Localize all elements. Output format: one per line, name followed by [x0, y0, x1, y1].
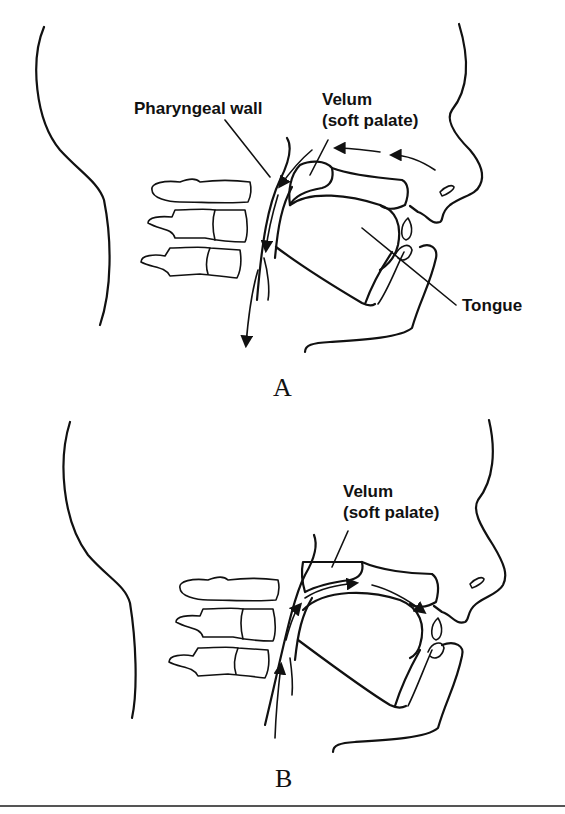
vertebrae-a: [141, 179, 251, 278]
upper-teeth-a: [402, 218, 412, 240]
epiglottis-a: [264, 258, 269, 300]
nostril-a: [440, 186, 454, 196]
airflow-arrow-nasal-1: [392, 155, 435, 170]
label-velum-a-line1: Velum: [322, 90, 372, 109]
panel-caption-a: A: [273, 373, 292, 402]
mandible-inner-a: [365, 252, 392, 304]
leader-line-tongue: [362, 228, 456, 305]
label-velum-b-line1: Velum: [343, 482, 393, 501]
pharynx-wall-back-b: [265, 535, 316, 725]
face-profile-a: [410, 24, 482, 223]
leader-line-velum-a: [310, 140, 328, 175]
tongue-lower-a: [276, 247, 375, 305]
mandible-inner2-b: [408, 650, 432, 706]
tongue-a: [290, 196, 399, 270]
panel-b: Velum (soft palate) B: [64, 420, 506, 793]
mandible-inner-b: [395, 650, 420, 706]
airflow-arrow-pharynx-3: [246, 270, 258, 345]
label-velum-b-line2: (soft palate): [343, 503, 439, 522]
neck-outline-b: [64, 422, 136, 718]
vertebrae-b: [169, 577, 279, 678]
bottom-rule: [0, 805, 565, 807]
upper-teeth-b: [432, 618, 442, 640]
airflow-arrow-nasal-2: [336, 148, 380, 152]
jaw-a: [305, 245, 436, 352]
label-velum-a-line2: (soft palate): [322, 111, 418, 130]
face-profile-b: [434, 420, 505, 623]
nostril-b: [470, 578, 484, 588]
anatomy-diagram: Pharyngeal wall Velum (soft palate) Tong…: [0, 0, 565, 814]
leader-line-pharyngeal-wall: [225, 120, 270, 177]
label-pharyngeal-wall: Pharyngeal wall: [134, 99, 263, 118]
pharynx-wall-back-a: [257, 138, 290, 300]
neck-outline-a: [36, 27, 109, 325]
label-tongue: Tongue: [462, 296, 522, 315]
tongue-lower-b: [298, 640, 406, 707]
velum-a: [289, 162, 332, 205]
panel-a: Pharyngeal wall Velum (soft palate) Tong…: [36, 24, 522, 402]
panel-caption-b: B: [275, 764, 292, 793]
tongue-b: [303, 593, 422, 658]
epiglottis-b: [290, 658, 292, 695]
